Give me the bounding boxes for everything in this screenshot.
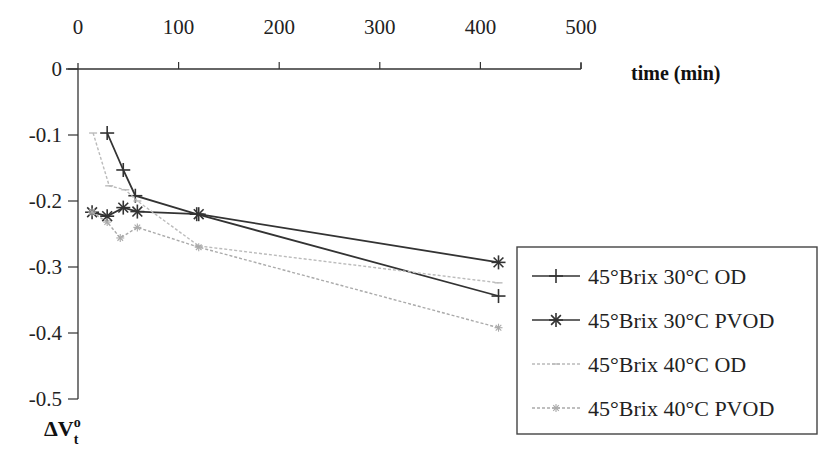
x-tick-label: 0 <box>73 15 84 39</box>
series-group <box>85 126 505 332</box>
x-tick-label: 300 <box>364 15 396 39</box>
svg-text:ΔVot: ΔVot <box>44 415 81 447</box>
x-tick-label: 500 <box>565 15 597 39</box>
y-tick-label: -0.1 <box>29 123 62 147</box>
series-line <box>93 133 498 283</box>
series-3 <box>89 133 502 283</box>
y-tick-label: -0.4 <box>29 321 63 345</box>
series-2 <box>85 201 505 270</box>
legend: 45°Brix 30°C OD45°Brix 30°C PVOD45°Brix … <box>517 247 817 434</box>
x-tick-label: 200 <box>263 15 295 39</box>
x-axis-title: time (min) <box>631 62 720 85</box>
legend-label: 45°Brix 30°C OD <box>588 264 746 289</box>
y-tick-label: -0.3 <box>29 255 62 279</box>
line-chart: 01002003004005000-0.1-0.2-0.3-0.4-0.5 45… <box>0 0 836 453</box>
series-4 <box>88 208 502 332</box>
y-tick-label: 0 <box>52 57 63 81</box>
y-axis-title-sub: t <box>74 432 79 447</box>
x-tick-label: 400 <box>465 15 497 39</box>
y-tick-label: -0.2 <box>29 189 62 213</box>
legend-label: 45°Brix 40°C OD <box>588 352 746 377</box>
y-axis-title: ΔVot <box>44 415 81 447</box>
x-tick-label: 100 <box>163 15 195 39</box>
legend-label: 45°Brix 40°C PVOD <box>588 396 774 421</box>
y-axis-title-sup: o <box>74 415 81 430</box>
series-line <box>107 133 498 296</box>
y-axis-title-main: ΔV <box>44 416 74 441</box>
series-line <box>92 208 498 263</box>
legend-label: 45°Brix 30°C PVOD <box>588 308 774 333</box>
y-tick-label: -0.5 <box>29 387 62 411</box>
